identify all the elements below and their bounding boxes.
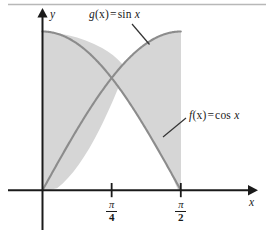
leader-line-g bbox=[132, 24, 150, 45]
figure-container: g(x)=sin x f(x)=cos x y x π 4 π 2 bbox=[0, 0, 272, 245]
f-expr-var: x bbox=[234, 109, 239, 121]
g-expr-fn: sin bbox=[118, 8, 132, 20]
pi-over-2-numerator: π bbox=[170, 199, 192, 210]
f-expr-fn: cos bbox=[215, 109, 231, 121]
tick-label-pi-over-4: π 4 bbox=[101, 199, 123, 224]
g-expr-var: x bbox=[135, 8, 140, 20]
y-axis-arrowhead bbox=[37, 8, 47, 18]
pi-over-4-numerator: π bbox=[101, 199, 123, 210]
g-func-arg: (x) bbox=[95, 8, 109, 20]
y-axis-label: y bbox=[50, 9, 55, 21]
g-equals: = bbox=[109, 8, 118, 20]
plot-svg bbox=[0, 0, 272, 245]
f-equals: = bbox=[206, 109, 215, 121]
pi-over-2-denominator: 2 bbox=[170, 212, 192, 224]
label-f-function: f(x)=cos x bbox=[189, 110, 239, 122]
f-func-arg: (x) bbox=[192, 109, 206, 121]
shaded-region-left-fill bbox=[43, 32, 123, 190]
x-axis-label: x bbox=[249, 197, 254, 209]
tick-label-pi-over-2: π 2 bbox=[170, 199, 192, 224]
pi-over-4-denominator: 4 bbox=[101, 212, 123, 224]
x-axis-arrowhead bbox=[248, 185, 258, 195]
label-g-function: g(x)=sin x bbox=[89, 9, 140, 21]
